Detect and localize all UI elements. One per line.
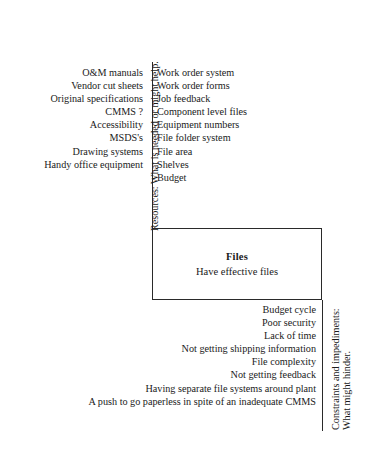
- list-item: Original specifications: [44, 92, 143, 105]
- list-item: Not getting shipping information: [89, 342, 317, 355]
- constraints-axis-label-primary: Constraints and impediments:: [330, 308, 341, 430]
- center-box-subtitle: Have effective files: [196, 265, 278, 279]
- resources-detail-list: Work order system Work order forms Job f…: [157, 66, 247, 184]
- list-item: Poor security: [89, 316, 317, 329]
- list-item: Job feedback: [157, 92, 247, 105]
- list-item: Accessibility: [44, 118, 143, 131]
- list-item: Equipment numbers: [157, 118, 247, 131]
- list-item: File complexity: [89, 355, 317, 368]
- list-item: File area: [157, 145, 247, 158]
- list-item: Budget cycle: [89, 303, 317, 316]
- list-item: A push to go paperless in spite of an in…: [89, 395, 317, 408]
- list-item: Component level files: [157, 105, 247, 118]
- center-box-title: Files: [226, 250, 248, 264]
- list-item: Drawing systems: [44, 145, 143, 158]
- force-field-diagram: Resources: What is needed or might help.…: [0, 0, 371, 457]
- list-item: Vendor cut sheets: [44, 79, 143, 92]
- list-item: O&M manuals: [44, 66, 143, 79]
- constraints-axis-label-secondary: What might hinder.: [341, 351, 352, 430]
- constraints-axis-line: [322, 300, 323, 431]
- list-item: Work order system: [157, 66, 247, 79]
- center-goal-box: Files Have effective files: [152, 228, 322, 300]
- list-item: CMMS ?: [44, 105, 143, 118]
- list-item: Not getting feedback: [89, 368, 317, 381]
- list-item: Budget: [157, 171, 247, 184]
- list-item: Having separate file systems around plan…: [89, 382, 317, 395]
- list-item: MSDS's: [44, 131, 143, 144]
- list-item: File folder system: [157, 131, 247, 144]
- list-item: Shelves: [157, 158, 247, 171]
- list-item: Lack of time: [89, 329, 317, 342]
- constraints-list: Budget cycle Poor security Lack of time …: [89, 303, 317, 408]
- resources-general-list: O&M manuals Vendor cut sheets Original s…: [44, 66, 143, 171]
- list-item: Handy office equipment: [44, 158, 143, 171]
- list-item: Work order forms: [157, 79, 247, 92]
